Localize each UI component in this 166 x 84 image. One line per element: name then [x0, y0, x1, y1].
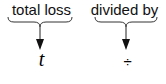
symbol-t: t	[0, 49, 83, 69]
mapping-divided-by: divided by ÷	[83, 0, 166, 84]
brace-arrow-icon	[83, 15, 166, 55]
mapping-total-loss: total loss t	[0, 0, 83, 84]
symbol-divide: ÷	[86, 54, 166, 70]
